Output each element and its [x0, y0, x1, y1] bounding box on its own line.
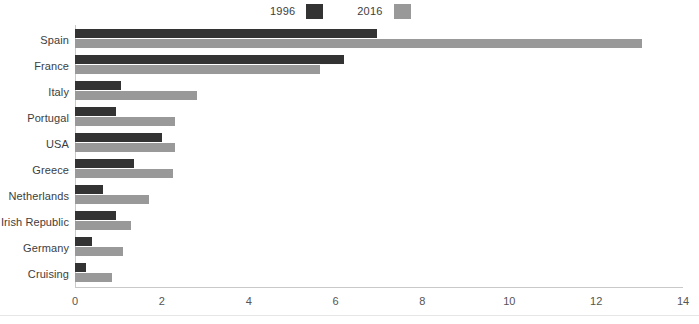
x-axis-tick-label: 12 [590, 292, 602, 310]
y-axis-label: Italy [0, 79, 69, 105]
bar-italy-2016 [75, 91, 197, 100]
y-axis-label: Netherlands [0, 183, 69, 209]
x-axis-labels: 02468101214 [75, 292, 683, 310]
bar-spain-2016 [75, 39, 642, 48]
y-axis-label: Cruising [0, 261, 69, 287]
bar-group [75, 261, 683, 287]
bar-usa-2016 [75, 143, 175, 152]
legend-swatch-2016 [394, 4, 411, 19]
y-axis-label: Spain [0, 27, 69, 53]
bar-group [75, 183, 683, 209]
bar-france-2016 [75, 65, 320, 74]
x-axis-tick-label: 6 [333, 292, 339, 310]
bar-netherlands-2016 [75, 195, 149, 204]
y-axis-label: Irish Republic [0, 209, 69, 235]
bar-group [75, 235, 683, 261]
x-axis-tick-label: 8 [419, 292, 425, 310]
y-axis-label: France [0, 53, 69, 79]
bar-group [75, 131, 683, 157]
bar-group [75, 27, 683, 53]
x-axis-tick-label: 2 [159, 292, 165, 310]
bar-germany-1996 [75, 237, 92, 246]
x-axis-tick-label: 0 [72, 292, 78, 310]
bar-greece-1996 [75, 159, 134, 168]
bar-portugal-1996 [75, 107, 116, 116]
chart-legend: 1996 2016 [270, 2, 411, 20]
legend-swatch-1996 [306, 4, 323, 19]
bar-irish-republic-2016 [75, 221, 131, 230]
bar-germany-2016 [75, 247, 123, 256]
bar-italy-1996 [75, 81, 121, 90]
y-axis-label: Portugal [0, 105, 69, 131]
bar-group [75, 79, 683, 105]
bar-group [75, 53, 683, 79]
bar-cruising-2016 [75, 273, 112, 282]
bar-spain-1996 [75, 29, 377, 38]
y-axis-label: Germany [0, 235, 69, 261]
x-axis-tick-label: 4 [246, 292, 252, 310]
bar-netherlands-1996 [75, 185, 103, 194]
bar-irish-republic-1996 [75, 211, 116, 220]
y-axis-label: USA [0, 131, 69, 157]
bar-portugal-2016 [75, 117, 175, 126]
legend-label-2016: 2016 [357, 6, 382, 17]
bar-france-1996 [75, 55, 344, 64]
legend-entry-2016: 2016 [357, 4, 410, 19]
bar-rows [75, 27, 683, 287]
bar-chart: 1996 2016 SpainFranceItalyPortugalUSAGre… [0, 0, 699, 324]
plot-area [75, 25, 683, 287]
x-axis-tick-label: 10 [503, 292, 515, 310]
bar-group [75, 209, 683, 235]
y-axis-labels: SpainFranceItalyPortugalUSAGreeceNetherl… [0, 27, 69, 287]
bar-group [75, 105, 683, 131]
x-axis-line [75, 287, 683, 288]
x-axis-tick-label: 14 [677, 292, 689, 310]
legend-label-1996: 1996 [270, 6, 295, 17]
bar-greece-2016 [75, 169, 173, 178]
bar-group [75, 157, 683, 183]
bar-usa-1996 [75, 133, 162, 142]
y-axis-label: Greece [0, 157, 69, 183]
legend-entry-1996: 1996 [270, 4, 323, 19]
bottom-divider [0, 315, 699, 316]
bar-cruising-1996 [75, 263, 86, 272]
